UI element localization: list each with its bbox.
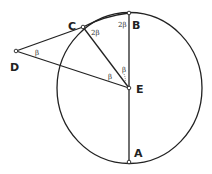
point-c — [81, 25, 85, 29]
label-e: E — [136, 83, 144, 96]
angle-label-d: β — [35, 49, 39, 57]
segment-ce — [83, 27, 129, 88]
point-a — [127, 160, 131, 164]
label-a: A — [134, 147, 143, 160]
angle-label-e-lower: β — [108, 73, 112, 81]
label-b: B — [132, 19, 140, 32]
point-d — [14, 49, 18, 53]
point-e — [127, 86, 131, 90]
segment-de — [16, 51, 129, 88]
label-c: C — [68, 20, 76, 33]
label-d: D — [10, 61, 19, 74]
angle-label-c: 2β — [91, 29, 100, 37]
angle-label-e-upper: β — [122, 66, 126, 74]
angle-label-b: 2β — [118, 21, 127, 29]
geometry-diagram: C B D E A β β β 2β 2β — [0, 0, 212, 174]
point-b — [127, 11, 131, 15]
